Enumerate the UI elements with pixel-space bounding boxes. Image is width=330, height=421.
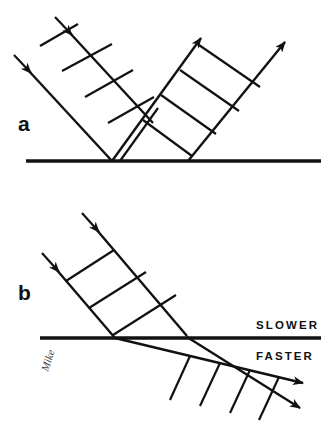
panel-a-label: a	[18, 112, 30, 135]
incident-arrow-b-1	[42, 253, 59, 272]
reflected-wavefront-a-2	[161, 95, 216, 134]
incident-beam-b	[42, 213, 187, 338]
reflected-beam-a	[112, 38, 285, 161]
incident-arrow-b-2	[82, 213, 99, 232]
faster-medium-label: FASTER	[256, 350, 314, 362]
incident-ray-b-1	[56, 269, 115, 338]
panel-a: a	[14, 17, 321, 161]
incident-wavefront-b-3	[113, 295, 176, 335]
incident-wavefront-b-2	[89, 272, 146, 308]
refracted-wavefront-b-1	[170, 356, 190, 400]
wave-reflection-refraction-figure: a	[0, 0, 330, 421]
refracted-wavefront-b-3	[230, 370, 250, 413]
slower-medium-label: SLOWER	[256, 319, 319, 331]
refracted-wavefront-b-2	[200, 363, 220, 406]
panel-b: b	[18, 213, 321, 420]
reflected-ray-a-1	[112, 38, 201, 161]
figure-canvas: a	[0, 0, 330, 421]
incident-ray-b-2	[96, 229, 187, 336]
reflected-wavefront-a-3	[180, 70, 239, 111]
reflected-wavefront-a-1	[143, 120, 192, 156]
reflected-wavefront-a-4	[199, 45, 260, 87]
incident-beam-a	[14, 17, 154, 161]
reflected-ray-a-inner	[120, 108, 158, 161]
incident-ray-a-1	[28, 70, 112, 161]
incident-wavefront-b-1	[66, 250, 114, 281]
incident-wavefront-a-2	[62, 44, 112, 71]
artist-signature: Mike	[38, 348, 57, 374]
reflected-ray-a-2	[188, 42, 285, 161]
panel-b-label: b	[18, 281, 31, 304]
incident-arrow-a-1	[14, 55, 31, 73]
